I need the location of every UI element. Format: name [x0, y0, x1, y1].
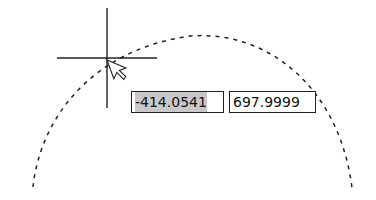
dynamic-input-y[interactable]: 697.9999 [229, 91, 316, 113]
x-value: -414.0541 [135, 92, 207, 112]
arrow-pointer-icon [107, 55, 129, 83]
dynamic-input-x[interactable]: -414.0541 [131, 91, 224, 113]
y-value: 697.9999 [233, 92, 300, 112]
drawing-canvas[interactable]: -414.0541 697.9999 [0, 0, 376, 200]
